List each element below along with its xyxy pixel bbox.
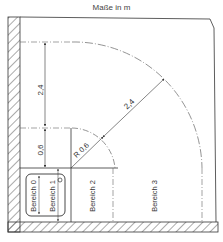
dim-line-radius-large xyxy=(103,79,164,137)
floor-bottom xyxy=(8,222,218,232)
zone-label-bereich-3: Bereich 3 xyxy=(150,180,159,212)
zone-label-bereich-1: Bereich 1 xyxy=(48,180,57,212)
zone-label-bereich-0: Bereich 0 xyxy=(29,180,38,212)
bathroom-zones-diagram: 2,4 0,6 R 0,6 2,4 Bereich 0 Bereich 1 Be… xyxy=(0,0,223,242)
drain-icon xyxy=(58,178,62,182)
dim-label-radius-large: 2,4 xyxy=(122,97,137,112)
zone-label-bereich-2: Bereich 2 xyxy=(88,180,97,212)
dim-label-lower: 0,6 xyxy=(36,144,45,156)
dim-label-radius-small: R 0,6 xyxy=(72,141,91,160)
dim-label-upper: 2,4 xyxy=(36,84,45,96)
wall-left xyxy=(8,17,20,232)
